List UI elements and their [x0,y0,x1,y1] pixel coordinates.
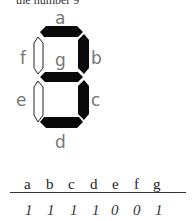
truth-table: a b c d e f g 1 1 1 1 0 0 1 [10,176,188,210]
value-e: 0 [111,202,119,219]
label-a: a [55,8,65,28]
value-c: 1 [70,202,78,219]
table-header-row: a b c d e f g [10,176,188,192]
value-d: 1 [92,202,100,219]
header-a: a [24,176,31,193]
header-d: d [90,176,98,193]
segment-e [34,81,43,122]
value-b: 1 [47,202,55,219]
header-b: b [46,176,54,193]
segment-c [78,80,89,120]
header-e: e [112,176,119,193]
segment-b [78,34,89,74]
segment-f [34,37,43,74]
label-d: d [55,132,66,152]
header-c: c [68,176,75,193]
segment-g [40,72,83,82]
label-c: c [91,90,100,110]
header-f: f [134,176,139,193]
seven-segment-display: a b f g e c d [0,0,193,170]
segment-d [40,117,83,128]
header-g: g [153,176,161,193]
value-g: 1 [155,202,163,219]
table-divider [10,192,186,193]
value-f: 0 [133,202,141,219]
label-g: g [55,50,66,70]
label-f: f [20,48,27,68]
table-value-row: 1 1 1 1 0 0 1 [10,202,188,220]
label-b: b [91,48,102,68]
value-a: 1 [25,202,33,219]
label-e: e [16,90,26,110]
